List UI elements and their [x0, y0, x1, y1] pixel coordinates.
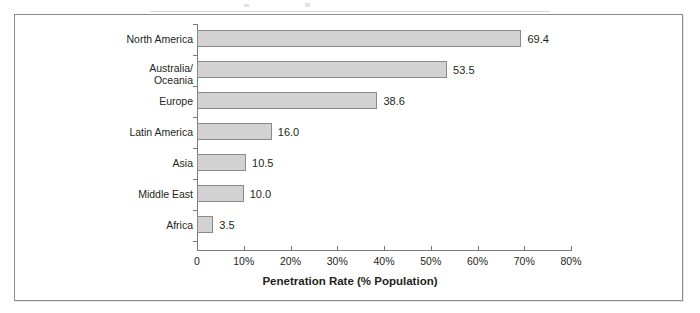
category-label: Middle East — [60, 188, 193, 200]
bar — [197, 61, 447, 78]
bar-value-label: 53.5 — [453, 65, 474, 76]
chart-screenshot: North America69.4Australia/ Oceania53.5E… — [0, 0, 700, 313]
bar — [197, 216, 213, 233]
x-axis-tick-label: 60% — [453, 256, 503, 267]
bar-value-label: 10.0 — [250, 189, 271, 200]
x-axis-tick-label: 50% — [406, 256, 456, 267]
bar — [197, 154, 246, 171]
x-axis-tick — [384, 246, 385, 250]
x-axis-tick-label: 10% — [219, 256, 269, 267]
bar-value-label: 69.4 — [527, 34, 548, 45]
x-axis-tick — [431, 246, 432, 250]
bar — [197, 30, 521, 47]
x-axis-tick — [197, 246, 198, 250]
x-axis-tick-label: 0 — [172, 256, 222, 267]
x-axis-tick-label: 70% — [499, 256, 549, 267]
category-label: Australia/ Oceania — [60, 62, 193, 86]
x-axis-tick — [478, 246, 479, 250]
x-axis-tick — [524, 246, 525, 250]
x-axis-title: Penetration Rate (% Population) — [0, 275, 700, 287]
bar-value-label: 10.5 — [252, 158, 273, 169]
y-axis-tick — [193, 148, 197, 149]
category-label: Asia — [60, 157, 193, 169]
x-axis-tick-label: 30% — [312, 256, 362, 267]
x-axis-tick — [337, 246, 338, 250]
category-label: North America — [60, 33, 193, 45]
bar-chart-plot: North America69.4Australia/ Oceania53.5E… — [0, 0, 700, 313]
bar-value-label: 3.5 — [219, 220, 234, 231]
category-label: Europe — [60, 95, 193, 107]
y-axis-tick — [193, 179, 197, 180]
y-axis-tick — [193, 86, 197, 87]
bar — [197, 185, 244, 202]
y-axis-tick — [193, 241, 197, 242]
category-label: Latin America — [60, 126, 193, 138]
x-axis-tick-label: 80% — [546, 256, 596, 267]
y-axis-tick — [193, 55, 197, 56]
x-axis-tick — [291, 246, 292, 250]
x-axis-line — [197, 250, 572, 251]
x-axis-tick — [571, 246, 572, 250]
x-axis-tick — [244, 246, 245, 250]
bar-value-label: 16.0 — [278, 127, 299, 138]
bar — [197, 123, 272, 140]
x-axis-tick-label: 40% — [359, 256, 409, 267]
y-axis-tick — [193, 210, 197, 211]
bar-value-label: 38.6 — [383, 96, 404, 107]
category-label: Africa — [60, 219, 193, 231]
y-axis-tick — [193, 117, 197, 118]
x-axis-tick-label: 20% — [266, 256, 316, 267]
bar — [197, 92, 377, 109]
y-axis-tick — [193, 24, 197, 25]
